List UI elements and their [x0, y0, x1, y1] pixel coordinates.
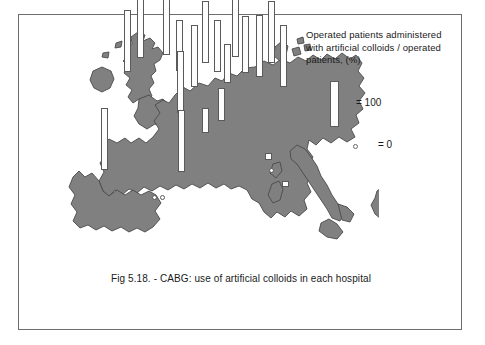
legend-bar-swatch-icon — [330, 81, 339, 127]
figure-frame: Operated patients administered with arti… — [18, 14, 462, 330]
legend-row-bar: = 100 — [330, 81, 470, 131]
legend-row-dot: = 0 — [330, 139, 470, 155]
legend: Operated patients administered with arti… — [306, 29, 466, 67]
legend-title: Operated patients administered with arti… — [306, 29, 458, 67]
legend-bar-label: = 100 — [356, 97, 381, 108]
legend-dot-label: = 0 — [378, 139, 392, 150]
figure-root: Operated patients administered with arti… — [0, 0, 485, 345]
figure-caption: Fig 5.18. - CABG: use of artificial coll… — [19, 273, 463, 284]
legend-dot-swatch-icon — [353, 144, 358, 149]
